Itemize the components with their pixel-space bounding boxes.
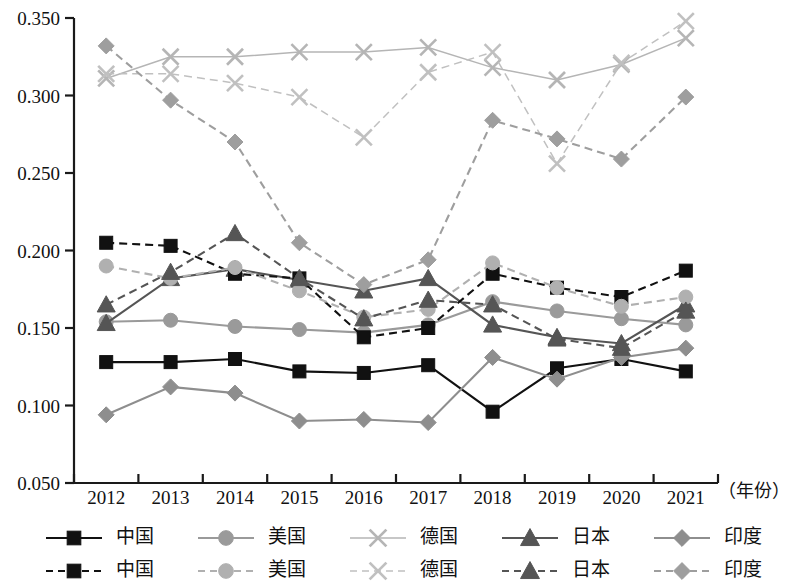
- marker-diamond: [420, 252, 436, 268]
- series-line: [106, 233, 686, 348]
- marker-diamond: [356, 411, 372, 427]
- y-tick-label: 0.350: [17, 8, 60, 29]
- series-line: [106, 38, 686, 80]
- series-line: [106, 263, 686, 317]
- marker-diamond: [678, 340, 694, 356]
- marker-cross: [485, 60, 501, 76]
- marker-square: [422, 322, 435, 335]
- marker-square: [100, 356, 113, 369]
- marker-triangle: [484, 316, 502, 332]
- marker-circle: [614, 299, 628, 313]
- x-tick-label: 2016: [345, 487, 383, 508]
- legend-label: 印度: [724, 559, 762, 580]
- marker-square: [422, 359, 435, 372]
- legend-item-德国-solid[interactable]: 德国: [350, 526, 458, 547]
- y-tick-label: 0.150: [17, 318, 60, 339]
- x-tick-label: 2017: [409, 487, 447, 508]
- marker-diamond: [227, 385, 243, 401]
- marker-cross: [678, 30, 694, 46]
- x-tick-label: 2018: [474, 487, 512, 508]
- marker-circle: [228, 319, 242, 333]
- marker-circle: [486, 256, 500, 270]
- data-series-layer: [97, 13, 695, 430]
- x-tick-label: 2012: [87, 487, 125, 508]
- series-中国-solid: [100, 353, 693, 419]
- marker-cross: [420, 64, 436, 80]
- marker-cross: [549, 72, 565, 88]
- legend-item-美国-dashed[interactable]: 美国: [198, 559, 306, 580]
- legend-label: 日本: [572, 559, 610, 580]
- x-tick-label: 2019: [538, 487, 576, 508]
- legend-label: 德国: [420, 559, 458, 580]
- legend-label: 美国: [268, 526, 306, 547]
- marker-triangle: [521, 562, 540, 579]
- legend-label: 美国: [268, 559, 306, 580]
- legend-item-德国-dashed[interactable]: 德国: [350, 559, 458, 580]
- marker-cross: [370, 563, 387, 580]
- series-德国-solid: [98, 30, 694, 88]
- marker-square: [164, 239, 177, 252]
- marker-diamond: [549, 131, 565, 147]
- marker-circle: [219, 531, 234, 546]
- legend-label: 日本: [572, 526, 610, 547]
- marker-square: [486, 405, 499, 418]
- legend-item-中国-dashed[interactable]: 中国: [46, 559, 154, 580]
- legend-item-日本-solid[interactable]: 日本: [502, 526, 610, 547]
- legend-label: 中国: [116, 526, 154, 547]
- marker-circle: [679, 318, 693, 332]
- x-tick-label: 2020: [602, 487, 640, 508]
- y-tick-label: 0.050: [17, 473, 60, 494]
- marker-circle: [219, 564, 234, 579]
- y-tick-label: 0.100: [17, 396, 60, 417]
- marker-cross: [227, 75, 243, 91]
- series-line: [106, 348, 686, 422]
- y-axis: [65, 18, 74, 483]
- series-line: [106, 46, 686, 285]
- x-axis-unit-label: （年份）: [718, 481, 790, 501]
- y-tick-label: 0.200: [17, 241, 60, 262]
- series-德国-dashed: [98, 13, 694, 172]
- legend-item-印度-dashed[interactable]: 印度: [654, 559, 762, 580]
- x-axis-tick-labels: 2012201320142015201620172018201920202021: [87, 487, 705, 508]
- marker-diamond: [674, 563, 691, 580]
- x-tick-label: 2015: [280, 487, 318, 508]
- marker-circle: [164, 313, 178, 327]
- marker-cross: [356, 129, 372, 145]
- marker-cross: [485, 44, 501, 60]
- marker-diamond: [163, 379, 179, 395]
- marker-square: [100, 236, 113, 249]
- x-tick-label: 2013: [152, 487, 190, 508]
- legend-item-美国-solid[interactable]: 美国: [198, 526, 306, 547]
- y-axis-tick-labels: 0.3500.3000.2500.2000.1500.1000.050: [17, 8, 60, 494]
- marker-triangle: [97, 296, 115, 312]
- y-tick-label: 0.300: [17, 86, 60, 107]
- legend-item-中国-solid[interactable]: 中国: [46, 526, 154, 547]
- marker-diamond: [227, 134, 243, 150]
- marker-diamond: [98, 407, 114, 423]
- marker-square: [679, 365, 692, 378]
- chart-canvas: 0.3500.3000.2500.2000.1500.1000.050 2012…: [0, 0, 800, 584]
- marker-diamond: [163, 92, 179, 108]
- marker-triangle: [419, 291, 437, 307]
- marker-diamond: [485, 112, 501, 128]
- marker-square: [293, 365, 306, 378]
- legend-item-日本-dashed[interactable]: 日本: [502, 559, 610, 580]
- series-美国-dashed: [99, 256, 693, 324]
- series-日本-dashed: [97, 224, 695, 355]
- legend: 中国美国德国日本印度中国美国德国日本印度: [46, 526, 762, 580]
- marker-circle: [614, 312, 628, 326]
- marker-circle: [292, 323, 306, 337]
- series-line: [106, 21, 686, 164]
- x-tick-label: 2021: [667, 487, 705, 508]
- marker-triangle: [419, 269, 437, 285]
- series-日本-solid: [97, 260, 695, 351]
- series-印度-solid: [98, 340, 694, 430]
- legend-item-印度-solid[interactable]: 印度: [654, 526, 762, 547]
- marker-cross: [678, 13, 694, 29]
- marker-square: [67, 531, 81, 545]
- legend-label: 德国: [420, 526, 458, 547]
- marker-cross: [291, 89, 307, 105]
- legend-label: 印度: [724, 526, 762, 547]
- series-中国-dashed: [100, 236, 693, 344]
- marker-circle: [550, 304, 564, 318]
